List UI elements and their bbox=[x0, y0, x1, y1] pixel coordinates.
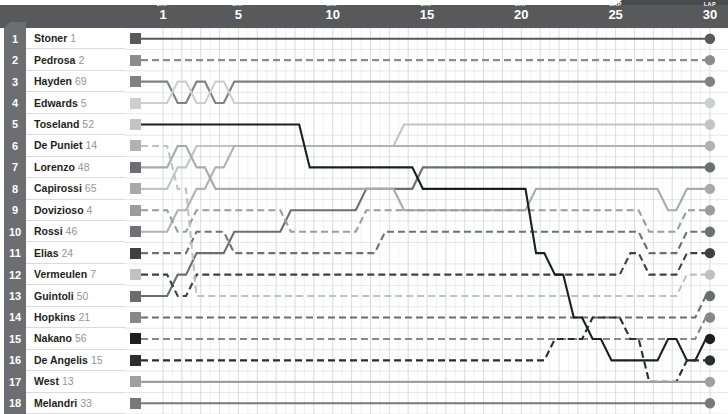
rider-number: 15 bbox=[91, 354, 103, 366]
rider-row[interactable]: Hopkins21 bbox=[26, 307, 125, 328]
series-endpoint-dot bbox=[705, 76, 715, 86]
rider-row[interactable]: West13 bbox=[26, 371, 125, 392]
lap-chart-page: LAP1LAP5LAP10LAP15LAP20LAP25LAP30 123456… bbox=[0, 0, 728, 414]
lap-tick-1: LAP1 bbox=[143, 1, 183, 22]
series-endpoint-dot bbox=[705, 355, 715, 365]
rank-number-5: 5 bbox=[4, 114, 26, 135]
rider-row[interactable]: Lorenzo48 bbox=[26, 157, 125, 178]
rider-number: 2 bbox=[78, 54, 84, 66]
rider-row[interactable]: Pedrosa2 bbox=[26, 49, 125, 70]
lap-tick-number: 30 bbox=[690, 8, 728, 22]
rider-color-swatch bbox=[130, 376, 141, 387]
lap-tick-number: 15 bbox=[407, 8, 447, 22]
series-endpoint-dot bbox=[705, 184, 715, 194]
rider-row[interactable]: Dovizioso4 bbox=[26, 200, 125, 221]
lap-tick-number: 10 bbox=[313, 8, 353, 22]
rider-row[interactable]: Toseland52 bbox=[26, 114, 125, 135]
rider-row[interactable]: De Angelis15 bbox=[26, 350, 125, 371]
rider-number: 4 bbox=[87, 204, 93, 216]
series-endpoint-dot bbox=[705, 269, 715, 279]
rank-number-18: 18 bbox=[4, 393, 26, 414]
rider-number: 69 bbox=[75, 75, 87, 87]
rider-number: 50 bbox=[77, 290, 89, 302]
rider-color-swatch bbox=[130, 333, 141, 344]
lap-tick-number: 1 bbox=[143, 8, 183, 22]
rank-number-2: 2 bbox=[4, 49, 26, 70]
lap-tick-15: LAP15 bbox=[407, 1, 447, 22]
rider-row[interactable]: Rossi46 bbox=[26, 221, 125, 242]
rider-name: West bbox=[34, 375, 59, 387]
rider-row[interactable]: De Puniet14 bbox=[26, 135, 125, 156]
series-endpoint-dot bbox=[705, 98, 715, 108]
rider-name: Edwards bbox=[34, 97, 78, 109]
rider-row[interactable]: Capirossi65 bbox=[26, 178, 125, 199]
series-endpoint-dot bbox=[705, 312, 715, 322]
rider-row[interactable]: Nakano56 bbox=[26, 328, 125, 349]
rider-number: 1 bbox=[70, 32, 76, 44]
rider-number: 7 bbox=[90, 268, 96, 280]
rider-color-swatch bbox=[130, 183, 141, 194]
rider-name: Capirossi bbox=[34, 182, 82, 194]
rider-color-swatch bbox=[130, 55, 141, 66]
rider-color-swatch bbox=[130, 269, 141, 280]
rider-name: De Angelis bbox=[34, 354, 88, 366]
rider-row[interactable]: Stoner1 bbox=[26, 28, 125, 49]
rider-number: 13 bbox=[62, 375, 74, 387]
rider-number: 65 bbox=[85, 182, 97, 194]
lap-tick-30: LAP30 bbox=[690, 1, 728, 22]
rider-name: Dovizioso bbox=[34, 204, 84, 216]
rider-row[interactable]: Elias24 bbox=[26, 242, 125, 263]
rider-name: Vermeulen bbox=[34, 268, 87, 280]
rider-name: Stoner bbox=[34, 32, 67, 44]
position-chart-plot bbox=[125, 28, 728, 414]
rider-number: 48 bbox=[78, 161, 90, 173]
rider-color-swatch bbox=[130, 98, 141, 109]
rider-row[interactable]: Melandri33 bbox=[26, 393, 125, 414]
rider-name: Toseland bbox=[34, 118, 79, 130]
series-line bbox=[141, 253, 710, 296]
series-endpoint-dot bbox=[705, 377, 715, 387]
rider-row[interactable]: Guintoli50 bbox=[26, 285, 125, 306]
rank-number-13: 13 bbox=[4, 285, 26, 306]
rank-number-6: 6 bbox=[4, 135, 26, 156]
rider-name: Lorenzo bbox=[34, 161, 75, 173]
rank-number-12: 12 bbox=[4, 264, 26, 285]
rank-number-17: 17 bbox=[4, 371, 26, 392]
chart-gridlines bbox=[125, 28, 728, 414]
rider-color-swatch bbox=[130, 205, 141, 216]
lap-tick-5: LAP5 bbox=[218, 1, 258, 22]
rider-color-swatch bbox=[130, 398, 141, 409]
rider-name: Nakano bbox=[34, 332, 72, 344]
series-endpoint-dot bbox=[705, 227, 715, 237]
rider-number: 24 bbox=[62, 247, 74, 259]
series-endpoint-dot bbox=[705, 398, 715, 408]
rider-color-swatch bbox=[130, 355, 141, 366]
rider-number: 52 bbox=[82, 118, 94, 130]
rider-color-swatch bbox=[130, 226, 141, 237]
series-endpoint-dot bbox=[705, 334, 715, 344]
rank-number-9: 9 bbox=[4, 200, 26, 221]
rider-number: 33 bbox=[80, 397, 92, 409]
rank-number-16: 16 bbox=[4, 350, 26, 371]
series-endpoint-dot bbox=[705, 248, 715, 258]
series-endpoint-dot bbox=[705, 162, 715, 172]
rank-number-3: 3 bbox=[4, 71, 26, 92]
series-endpoint-dot bbox=[705, 291, 715, 301]
rider-color-swatch bbox=[130, 76, 141, 87]
lap-tick-number: 5 bbox=[218, 8, 258, 22]
rider-name: Hopkins bbox=[34, 311, 75, 323]
rank-number-7: 7 bbox=[4, 157, 26, 178]
series-endpoint-dot bbox=[705, 119, 715, 129]
series-endpoint-dot bbox=[705, 205, 715, 215]
rank-number-11: 11 bbox=[4, 242, 26, 263]
rider-color-swatch bbox=[130, 312, 141, 323]
rider-row[interactable]: Hayden69 bbox=[26, 71, 125, 92]
rider-name: Melandri bbox=[34, 397, 77, 409]
rank-number-15: 15 bbox=[4, 328, 26, 349]
rider-number: 46 bbox=[66, 225, 78, 237]
lap-tick-20: LAP20 bbox=[501, 1, 541, 22]
rider-row[interactable]: Edwards5 bbox=[26, 92, 125, 113]
rider-number: 56 bbox=[75, 332, 87, 344]
rider-row[interactable]: Vermeulen7 bbox=[26, 264, 125, 285]
position-chart-svg bbox=[125, 28, 728, 414]
